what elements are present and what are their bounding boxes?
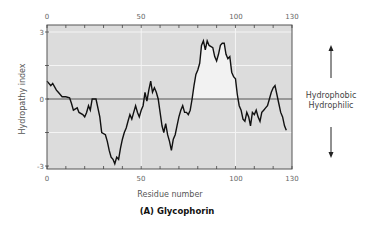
- x-tick-bottom-100: 100: [229, 175, 242, 183]
- hydrophilic-label: Hydrophilic: [308, 101, 353, 110]
- x-tick-bottom-50: 50: [137, 175, 146, 183]
- x-tick-top-0: 0: [45, 13, 49, 21]
- y-tick-0: 0: [40, 96, 44, 104]
- arrow-down-icon: [329, 152, 334, 158]
- y-tick-3: 3: [40, 29, 44, 37]
- x-axis-title: Residue number: [137, 190, 203, 199]
- hydropathy-chart: 0 50 100 130 0 50 100 130 3 0 -3 Hydropa…: [0, 0, 372, 230]
- x-tick-bottom-0: 0: [45, 175, 49, 183]
- x-tick-top-50: 50: [137, 13, 146, 21]
- hydrophobic-label: Hydrophobic: [306, 91, 357, 100]
- x-tick-top-130: 130: [285, 13, 298, 21]
- y-axis-title: Hydropathy index: [18, 63, 27, 134]
- figure-caption: (A) Glycophorin: [140, 206, 215, 216]
- x-tick-bottom-130: 130: [285, 175, 298, 183]
- x-tick-top-100: 100: [229, 13, 242, 21]
- plot-area: [47, 25, 292, 169]
- y-tick-minus-3: -3: [37, 163, 44, 171]
- arrow-up-icon: [329, 45, 334, 51]
